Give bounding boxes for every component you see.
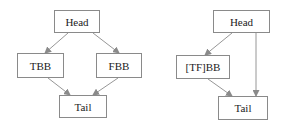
node-tbb: TBB [17,53,64,78]
node-tail-right: Tail [218,96,268,120]
node-label: FBB [109,60,130,72]
edge-head-fbb [93,33,119,53]
node-fbb: FBB [96,53,142,78]
edge-head-tfbb [205,33,232,55]
node-tfbb: [TF]BB [176,55,230,79]
node-label: Head [230,16,253,28]
node-head-left: Head [54,10,100,33]
edge-head-tbb [45,33,68,53]
node-tail-left: Tail [59,95,107,118]
node-head-right: Head [213,10,270,33]
edge-tfbb-tail [208,79,232,96]
node-label: Tail [235,102,252,114]
node-label: Head [65,16,88,28]
node-label: TBB [30,60,51,72]
node-label: [TF]BB [186,61,221,73]
node-label: Tail [75,101,92,113]
edge-fbb-tail [93,78,118,95]
edge-tbb-tail [48,78,70,95]
